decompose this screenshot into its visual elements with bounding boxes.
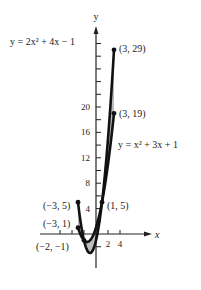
point-label-neg2-neg1: (−2, −1) — [36, 241, 69, 253]
x-axis-arrow — [144, 232, 152, 237]
data-point — [76, 200, 81, 205]
y-tick-12: 12 — [81, 153, 90, 163]
y-axis-arrow — [94, 26, 99, 34]
y-tick-4: 4 — [86, 204, 91, 214]
point-label-neg3-5: (−3, 5) — [43, 200, 70, 212]
y-axis-label: y — [94, 11, 99, 22]
data-point — [76, 225, 81, 230]
curve2-label: y = x² + 3x + 1 — [118, 139, 178, 150]
x-tick-2: 2 — [106, 239, 111, 249]
x-axis-label: x — [154, 229, 160, 240]
data-point — [100, 200, 105, 205]
data-point — [112, 111, 117, 116]
data-point — [82, 238, 87, 243]
point-label-neg3-1: (−3, 1) — [43, 218, 70, 230]
y-tick-20: 20 — [81, 102, 91, 112]
x-tick-4: 4 — [118, 239, 123, 249]
point-label-1-5: (1, 5) — [107, 200, 129, 212]
data-point — [112, 47, 117, 52]
y-tick-16: 16 — [81, 127, 91, 137]
curve1-label: y = 2x² + 4x − 1 — [10, 36, 75, 47]
point-label-3-29: (3, 29) — [119, 43, 146, 55]
point-label-3-19: (3, 19) — [119, 108, 146, 120]
y-tick-8: 8 — [86, 178, 91, 188]
chart-canvas: y x y = 2x² + 4x − 1 y = x² + 3x + 1 (3,… — [0, 0, 201, 290]
